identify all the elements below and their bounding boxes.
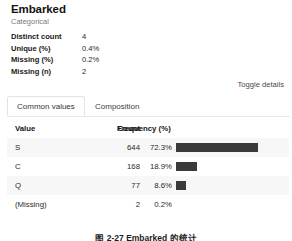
statistics-list: Distinct count 4 Unique (%) 0.4% Missing… [11,31,171,77]
frequency-bar-cell [176,138,289,157]
stat-label: Missing (%) [11,54,53,66]
stat-value: 4 [82,31,86,43]
variable-summary-panel: Embarked Categorical Distinct count 4 Un… [0,0,292,241]
column-header-value: Value [15,120,35,138]
cell-count: 168 [83,157,140,176]
figure-caption: 图 2-27 Embarked 的统计 [0,233,292,241]
frequency-bar [176,181,186,190]
cell-frequency: 8.6% [144,176,172,195]
frequency-bar-cell [176,157,289,176]
stat-label: Missing (n) [11,66,51,78]
variable-type-label: Categorical [11,17,49,26]
bar-track [176,143,289,152]
tab-common-values[interactable]: Common values [7,96,85,116]
stat-label: Distinct count [11,31,62,43]
cell-value: S [15,138,20,157]
stat-value: 0.2% [82,54,99,66]
bar-track [176,181,289,190]
stat-row-unique-percent: Unique (%) 0.4% [11,43,171,55]
frequency-bar [176,143,258,152]
bar-track [176,162,289,171]
cell-frequency: 18.9% [144,157,172,176]
column-header-frequency: Frequency (%) [117,120,172,138]
stat-row-missing-count: Missing (n) 2 [11,66,171,78]
cell-value: C [15,157,21,176]
page-title: Embarked [11,3,66,16]
cell-value: (Missing) [15,195,47,214]
table-row: (Missing) 2 0.2% [7,195,289,214]
cell-count: 77 [83,176,140,195]
cell-count: 2 [83,195,140,214]
cell-frequency: 72.3% [144,138,172,157]
cell-frequency: 0.2% [144,195,172,214]
table-header-row: Value Count Frequency (%) [7,120,289,138]
tab-composition[interactable]: Composition [85,96,149,116]
toggle-details-link[interactable]: Toggle details [238,80,284,90]
stat-value: 0.4% [82,43,99,55]
cell-value: Q [15,176,21,195]
stat-row-distinct-count: Distinct count 4 [11,31,171,43]
cell-count: 644 [83,138,140,157]
stat-row-missing-percent: Missing (%) 0.2% [11,54,171,66]
tab-bar: Common values Composition [0,96,292,117]
stat-label: Unique (%) [11,43,51,55]
table-row: S 644 72.3% [7,138,289,157]
frequency-bar [176,162,197,171]
stat-value: 2 [82,66,86,78]
common-values-table: Value Count Frequency (%) S 644 72.3% C … [7,120,289,214]
table-row: Q 77 8.6% [7,176,289,195]
table-row: C 168 18.9% [7,157,289,176]
frequency-bar-cell [176,176,289,195]
frequency-bar-cell [176,195,289,214]
